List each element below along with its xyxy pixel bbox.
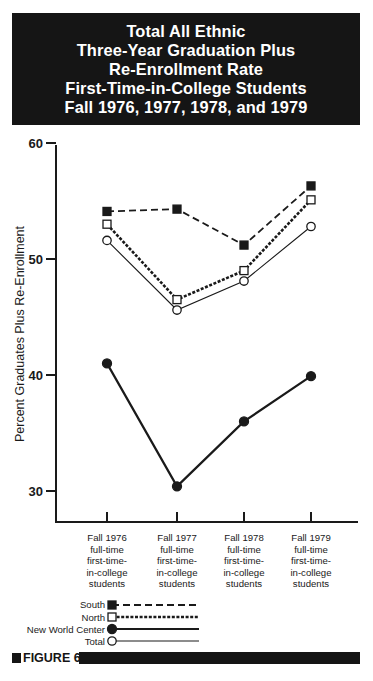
category-label-line: in-college (72, 567, 142, 579)
x-category-label: Fall 1978full-timefirst-time-in-colleges… (209, 532, 279, 590)
x-category-label: Fall 1979full-timefirst-time-in-colleges… (276, 532, 346, 590)
category-label-line: first-time- (72, 555, 142, 567)
figure-label: FIGURE 6 (23, 651, 81, 665)
legend-swatch-total (108, 637, 199, 645)
category-label-line: students (276, 578, 346, 590)
y-axis-label: Percent Graduates Plus Re-Enrollment (13, 225, 27, 442)
category-label-line: full-time (276, 544, 346, 556)
category-label-line: in-college (209, 567, 279, 579)
marker-south (240, 241, 248, 249)
series-line-south (107, 186, 311, 245)
legend-swatch-new-world-center (108, 625, 200, 634)
marker-new-world-center (240, 417, 249, 426)
category-label-line: full-time (72, 544, 142, 556)
marker-north (307, 196, 315, 204)
marker-new-world-center (307, 372, 316, 381)
category-label-line: first-time- (209, 555, 279, 567)
y-ticks: 30405060 (29, 136, 56, 499)
category-label-line: first-time- (276, 555, 346, 567)
category-label-line: first-time- (142, 555, 212, 567)
category-label-line: students (72, 578, 142, 590)
marker-north (240, 267, 248, 275)
marker-new-world-center (173, 482, 182, 491)
marker-north (103, 220, 111, 228)
category-label-line: in-college (276, 567, 346, 579)
marker-total (103, 236, 111, 244)
legend-marker-total (108, 637, 116, 645)
x-category-label: Fall 1976full-timefirst-time-in-colleges… (72, 532, 142, 590)
marker-total (173, 306, 181, 314)
legend-label-south: South (5, 599, 105, 610)
marker-south (307, 182, 315, 190)
series-group (103, 182, 316, 491)
marker-south (103, 207, 111, 215)
category-label-line: Fall 1976 (72, 532, 142, 544)
figure-rule (79, 652, 360, 664)
series-line-total (107, 227, 311, 311)
marker-total (240, 277, 248, 285)
category-label-line: students (142, 578, 212, 590)
marker-new-world-center (103, 359, 112, 368)
legend-marker-south (108, 601, 116, 609)
category-label-line: students (209, 578, 279, 590)
legend-swatches (108, 601, 200, 645)
x-category-label: Fall 1977full-timefirst-time-in-colleges… (142, 532, 212, 590)
y-tick-label: 30 (29, 484, 43, 499)
figure-caption-bar: FIGURE 6 (12, 652, 360, 664)
series-south (103, 182, 315, 249)
category-label-line: Fall 1978 (209, 532, 279, 544)
marker-total (307, 222, 315, 230)
legend-swatch-south (108, 601, 199, 609)
series-total (103, 222, 315, 314)
category-label-line: in-college (142, 567, 212, 579)
legend-swatch-north (108, 613, 199, 621)
category-label-line: Fall 1979 (276, 532, 346, 544)
x-ticks (107, 512, 311, 522)
legend-marker-north (108, 613, 116, 621)
marker-north (173, 296, 181, 304)
legend-label-new-world-center: New World Center (5, 624, 105, 635)
series-new-world-center (103, 359, 316, 491)
legend-marker-new-world-center (108, 625, 117, 634)
legend-label-total: Total (5, 636, 105, 647)
category-label-line: full-time (209, 544, 279, 556)
legend-label-north: North (5, 612, 105, 623)
marker-south (173, 205, 181, 213)
category-label-line: Fall 1977 (142, 532, 212, 544)
y-tick-label: 50 (29, 252, 43, 267)
y-tick-label: 60 (29, 136, 43, 151)
series-line-north (107, 200, 311, 300)
figure-square-icon (12, 653, 21, 663)
series-line-new-world-center (107, 363, 311, 486)
category-label-line: full-time (142, 544, 212, 556)
y-tick-label: 40 (29, 368, 43, 383)
